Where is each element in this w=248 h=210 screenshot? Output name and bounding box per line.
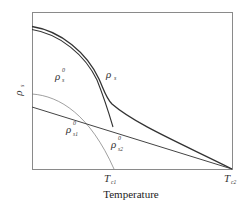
svg-text:T: T	[224, 172, 231, 184]
svg-text:0: 0	[118, 135, 121, 141]
y-axis-label: ρ s	[12, 84, 25, 97]
svg-text:ρ: ρ	[65, 123, 71, 135]
svg-text:s: s	[62, 77, 65, 83]
label-rho-s1-0: ρ 0 s1	[65, 120, 78, 137]
label-rho-s-0: ρ 0 s	[54, 67, 65, 83]
svg-text:s1: s1	[73, 131, 78, 137]
svg-text:c2: c2	[231, 179, 236, 185]
x-axis-label: Temperature	[103, 188, 159, 200]
plot-frame	[33, 13, 233, 170]
x-tick-tc2: T c2	[224, 172, 236, 185]
x-tick-tc1: T c1	[104, 172, 116, 185]
svg-text:ρ: ρ	[105, 68, 111, 80]
label-rho-s2-0: ρ 0 s2	[110, 135, 123, 152]
svg-text:ρ: ρ	[54, 70, 60, 82]
svg-text:ρ: ρ	[110, 138, 116, 150]
curve-rho-s2-0	[32, 107, 232, 169]
svg-text:ρ: ρ	[12, 90, 24, 96]
svg-text:0: 0	[62, 67, 65, 73]
label-rho-s: ρ s	[105, 68, 117, 81]
svg-text:0: 0	[73, 120, 76, 126]
svg-text:s: s	[114, 75, 117, 81]
curve-rho-s-0	[32, 30, 113, 128]
curve-rho-s	[32, 27, 232, 170]
svg-text:s2: s2	[118, 146, 123, 152]
superfluid-density-diagram: ρ 0 s ρ s ρ 0 s1 ρ 0 s2 ρ s T c1 T c2 Te…	[0, 0, 248, 210]
svg-text:T: T	[104, 172, 111, 184]
svg-text:c1: c1	[111, 179, 116, 185]
svg-text:s: s	[19, 84, 25, 87]
